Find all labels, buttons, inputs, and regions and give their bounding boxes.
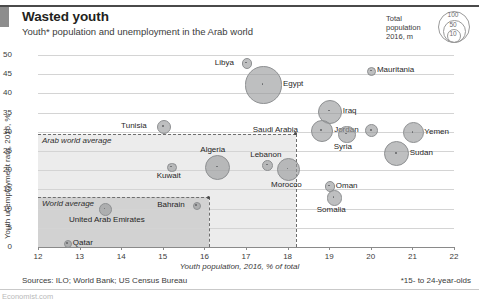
data-label-saudi-arabia: Saudi Arabia	[253, 125, 298, 134]
data-label-kuwait: Kuwait	[157, 171, 181, 180]
data-point-morocco[interactable]	[277, 158, 300, 181]
page-title: Wasted youth	[22, 9, 109, 24]
y-tick-label-25: 25	[0, 146, 12, 155]
x-tick-mark-17	[246, 247, 247, 250]
footnote-text: *15- to 24-year-olds	[401, 276, 471, 285]
data-point-egypt[interactable]	[245, 66, 282, 103]
legend-size-label-50: 50	[438, 21, 468, 28]
data-label-egypt: Egypt	[283, 79, 303, 88]
x-tick-label-20: 20	[359, 252, 383, 261]
data-point-center-lebanon	[266, 164, 268, 166]
x-tick-label-12: 12	[26, 252, 50, 261]
x-tick-label-18: 18	[276, 252, 300, 261]
data-label-lebanon: Lebanon	[250, 150, 281, 159]
legend-size-label-100: 100	[438, 11, 468, 18]
x-axis-label: Youth population, 2016, % of total	[0, 262, 479, 271]
data-label-morocco: Morocco	[271, 180, 302, 189]
x-tick-label-17: 17	[234, 252, 258, 261]
plot-area: 0510152025303540455012131415161718192021…	[38, 55, 454, 247]
data-label-sudan: Sudan	[410, 148, 433, 157]
gridline-y-35	[38, 113, 454, 114]
data-point-center-qatar	[66, 242, 68, 244]
data-point-tunisia[interactable]	[157, 120, 171, 134]
data-label-bahrain: Bahrain	[157, 200, 185, 209]
x-tick-label-15: 15	[151, 252, 175, 261]
y-tick-label-0: 0	[0, 242, 12, 251]
data-point-algeria[interactable]	[205, 155, 230, 180]
top-rule	[0, 5, 479, 7]
data-point-jordan[interactable]	[365, 124, 378, 137]
x-tick-mark-20	[371, 247, 372, 250]
data-label-somalia: Somalia	[317, 205, 346, 214]
data-label-mauritania: Mauritania	[377, 65, 414, 74]
x-tick-label-13: 13	[68, 252, 92, 261]
average-label-world: World average	[42, 199, 94, 208]
legend-caption: Total population 2016, m	[386, 14, 421, 41]
data-point-center-saudi-arabia	[320, 129, 322, 131]
data-point-center-sudan	[395, 152, 397, 154]
gridline-y-30	[38, 132, 454, 133]
bottom-rule	[0, 289, 479, 290]
data-label-algeria: Algeria	[200, 145, 225, 154]
data-point-sudan[interactable]	[384, 141, 409, 166]
data-point-center-tunisia	[162, 125, 164, 127]
legend-size-circles: 100 50 10	[434, 9, 474, 49]
x-tick-mark-21	[412, 247, 413, 250]
y-tick-label-5: 5	[0, 223, 12, 232]
average-line-h-world	[38, 197, 209, 198]
data-point-center-algeria	[216, 166, 218, 168]
corner-tab	[0, 7, 9, 27]
gridline-y-5	[38, 228, 454, 229]
data-point-center-jordan	[370, 129, 372, 131]
data-label-oman: Oman	[336, 181, 358, 190]
data-point-saudi-arabia[interactable]	[311, 120, 334, 143]
x-tick-label-19: 19	[317, 252, 341, 261]
data-point-center-kuwait	[170, 166, 172, 168]
gridline-y-50	[38, 55, 454, 56]
average-corner-dot-world	[207, 196, 210, 199]
x-tick-mark-18	[288, 247, 289, 250]
x-tick-mark-19	[329, 247, 330, 250]
data-label-yemen: Yemen	[424, 127, 449, 136]
page-subtitle: Youth* population and unemployment in th…	[22, 26, 253, 37]
average-label-arab: Arab world average	[42, 136, 111, 145]
watermark: Economist.com	[2, 292, 53, 301]
y-tick-label-35: 35	[0, 108, 12, 117]
x-tick-label-16: 16	[192, 252, 216, 261]
data-label-syria: Syria	[334, 142, 352, 151]
y-tick-label-30: 30	[0, 127, 12, 136]
chart-root: Wasted youth Youth* population and unemp…	[0, 0, 479, 305]
data-label-libya: Libya	[215, 58, 234, 67]
data-label-qatar: Qatar	[73, 238, 93, 247]
x-tick-label-22: 22	[442, 252, 466, 261]
gridline-y-15	[38, 189, 454, 190]
y-tick-label-50: 50	[0, 50, 12, 59]
data-point-center-mauritania	[370, 70, 372, 72]
legend-line-1: Total	[386, 14, 421, 23]
data-label-iraq: Iraq	[343, 106, 357, 115]
data-point-somalia[interactable]	[327, 190, 343, 206]
legend-line-2: population	[386, 23, 421, 32]
data-point-center-yemen	[412, 131, 414, 133]
average-line-v-arab	[296, 134, 297, 247]
y-tick-label-10: 10	[0, 204, 12, 213]
x-tick-mark-12	[38, 247, 39, 250]
x-tick-mark-13	[80, 247, 81, 250]
y-tick-label-45: 45	[0, 69, 12, 78]
data-point-yemen[interactable]	[403, 122, 424, 143]
y-tick-label-40: 40	[0, 88, 12, 97]
data-point-syria[interactable]	[338, 126, 355, 143]
x-tick-mark-15	[163, 247, 164, 250]
x-tick-mark-22	[454, 247, 455, 250]
legend-size-label-10: 10	[438, 30, 468, 37]
data-point-libya[interactable]	[242, 58, 253, 69]
sources-text: Sources: ILO; World Bank; US Census Bure…	[22, 276, 187, 285]
x-tick-mark-14	[121, 247, 122, 250]
gridline-y-20	[38, 170, 454, 171]
data-point-center-somalia	[333, 196, 335, 198]
legend-line-3: 2016, m	[386, 32, 421, 41]
x-tick-mark-16	[204, 247, 205, 250]
y-tick-label-15: 15	[0, 184, 12, 193]
x-tick-label-14: 14	[109, 252, 133, 261]
x-tick-label-21: 21	[400, 252, 424, 261]
